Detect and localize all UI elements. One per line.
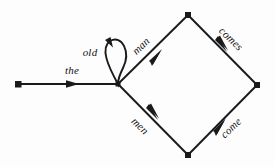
right-node xyxy=(254,82,260,88)
edge-men xyxy=(118,84,188,155)
hub-node xyxy=(116,82,121,87)
transition-network-graph xyxy=(0,0,275,167)
diagram-canvas: the old man men comes come xyxy=(0,0,275,167)
edge-the xyxy=(18,80,118,88)
bottom-node xyxy=(185,152,191,158)
edge-label-old: old xyxy=(83,47,98,58)
edge-come xyxy=(188,85,257,155)
start-node xyxy=(15,81,22,88)
top-node xyxy=(185,12,191,18)
edge-label-the: the xyxy=(65,65,79,76)
arrowhead-the xyxy=(66,80,79,88)
edge-man xyxy=(118,15,188,84)
edge-old-selfloop xyxy=(105,37,126,84)
